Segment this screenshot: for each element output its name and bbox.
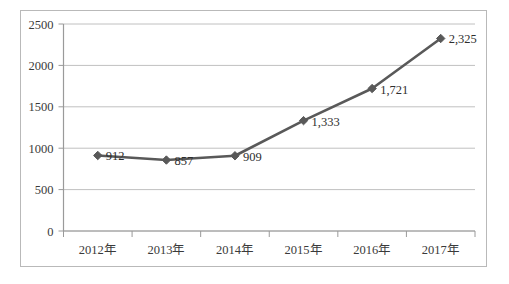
x-axis <box>64 231 476 237</box>
x-tick-label: 2017年 <box>422 243 460 257</box>
data-point-label: 912 <box>106 149 125 163</box>
data-point-label: 1,333 <box>312 115 340 129</box>
data-point-label: 909 <box>243 150 262 164</box>
gridlines <box>59 24 476 231</box>
y-tick-label: 0 <box>47 225 53 239</box>
y-tick-label: 1500 <box>29 100 54 114</box>
data-line <box>98 38 441 160</box>
data-markers <box>94 34 445 164</box>
data-point-label: 857 <box>174 154 193 168</box>
data-point-label: 2,325 <box>449 32 477 46</box>
data-point-label: 1,721 <box>380 83 408 97</box>
series-line <box>98 38 441 160</box>
y-tick-labels: 05001000150020002500 <box>29 18 54 239</box>
y-tick-label: 1000 <box>29 142 54 156</box>
y-tick-label: 2500 <box>29 18 54 32</box>
x-tick-label: 2015年 <box>285 243 323 257</box>
y-tick-label: 2000 <box>29 59 54 73</box>
chart-figure: 05001000150020002500 2012年2013年2014年2015… <box>20 10 487 267</box>
y-tick-label: 500 <box>35 183 54 197</box>
line-chart: 05001000150020002500 2012年2013年2014年2015… <box>21 11 486 266</box>
x-tick-label: 2014年 <box>216 243 254 257</box>
x-tick-labels: 2012年2013年2014年2015年2016年2017年 <box>79 243 460 257</box>
data-point-marker <box>162 156 170 164</box>
x-tick-label: 2016年 <box>353 243 391 257</box>
x-tick-label: 2012年 <box>79 243 117 257</box>
data-point-marker <box>94 151 102 159</box>
x-tick-label: 2013年 <box>147 243 185 257</box>
